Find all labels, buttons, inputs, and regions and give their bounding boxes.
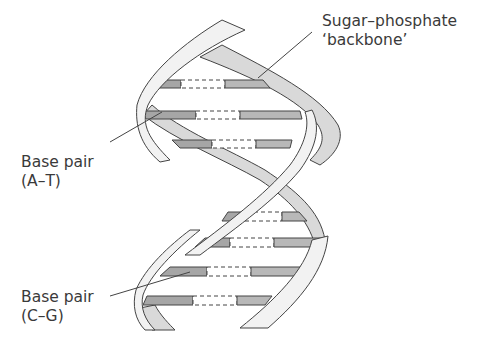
label-base-pair-cg-line2: (C–G)	[21, 307, 94, 326]
base-pair-rung	[143, 296, 272, 305]
leader-line-backbone	[258, 32, 312, 78]
leader-line-base-pair-at	[110, 112, 162, 142]
label-base-pair-at: Base pair (A–T)	[21, 153, 94, 191]
label-sugar-phosphate-backbone: Sugar–phosphate ‘backbone’	[322, 12, 457, 50]
label-base-pair-cg: Base pair (C–G)	[21, 288, 94, 326]
label-backbone-line2: ‘backbone’	[322, 31, 457, 50]
backbone-strand-front-lower	[134, 230, 200, 330]
backbone-strand-front-right	[185, 110, 316, 255]
label-base-pair-cg-line1: Base pair	[21, 288, 94, 307]
base-pair-rung	[152, 80, 270, 88]
label-base-pair-at-line2: (A–T)	[21, 172, 94, 191]
base-pair-rung	[141, 111, 302, 119]
base-pair-rung	[172, 140, 292, 148]
backbone-strand-front-bottom	[240, 236, 328, 328]
label-backbone-line1: Sugar–phosphate	[322, 12, 457, 31]
label-base-pair-at-line1: Base pair	[21, 153, 94, 172]
